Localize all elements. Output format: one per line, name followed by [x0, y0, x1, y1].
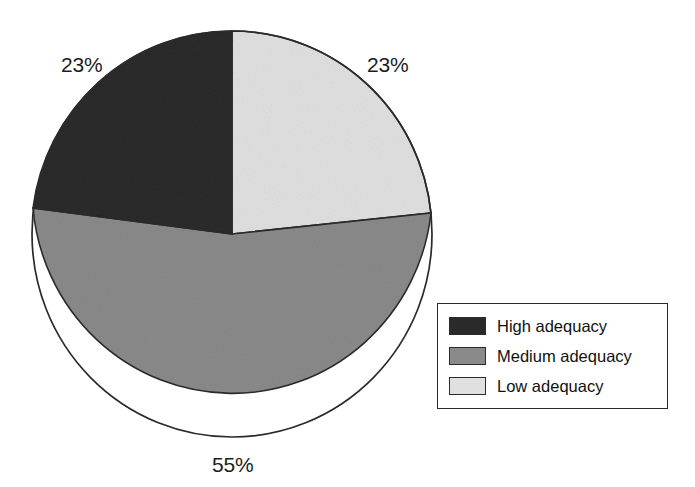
pie-label-low-adequacy: 23%	[367, 54, 408, 75]
pie-svg	[30, 29, 434, 440]
legend-item-low-adequacy: Low adequacy	[449, 371, 667, 401]
legend-label-low-adequacy: Low adequacy	[497, 378, 603, 395]
pie-label-medium-adequacy: 55%	[212, 454, 253, 475]
legend-swatch-medium-adequacy	[449, 347, 486, 365]
pie-slice-medium-adequacy	[33, 208, 431, 393]
chart-legend: High adequacy Medium adequacy Low adequa…	[437, 303, 668, 409]
pie-chart-graphic	[30, 29, 434, 440]
pie-chart-figure: 23% 23% 55% High adequacy Medium adequac…	[0, 0, 695, 487]
legend-label-medium-adequacy: Medium adequacy	[497, 348, 632, 365]
legend-item-high-adequacy: High adequacy	[449, 311, 667, 341]
pie-label-high-adequacy: 23%	[61, 54, 102, 75]
legend-swatch-high-adequacy	[449, 317, 486, 335]
legend-label-high-adequacy: High adequacy	[497, 318, 607, 335]
legend-item-medium-adequacy: Medium adequacy	[449, 341, 667, 371]
legend-swatch-low-adequacy	[449, 377, 486, 395]
